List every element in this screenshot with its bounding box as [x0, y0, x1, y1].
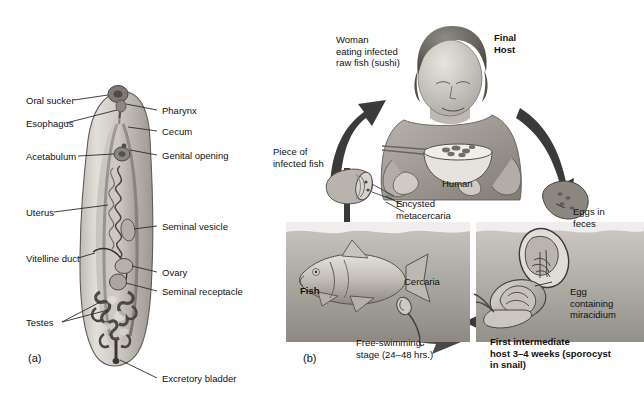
label-encysted-metacercaria: Encysted metacercaria: [396, 198, 451, 221]
panel-a-id: (a): [28, 352, 41, 364]
label-testes: Testes: [26, 317, 53, 329]
ovary-shape: [115, 259, 133, 274]
label-free-swimming-stage: Free-swimming stage (24–48 hrs.): [356, 337, 433, 360]
figure-container: Oral sucker Esophagus Acetabulum Uterus …: [0, 0, 644, 400]
excretory-pore: [113, 358, 120, 364]
label-fish: Fish: [300, 285, 320, 297]
label-cecum: Cecum: [162, 126, 192, 138]
oral-sucker-opening: [114, 91, 123, 98]
label-egg-containing-miracidium: Egg containing miracidium: [570, 286, 616, 321]
label-oral-sucker: Oral sucker: [26, 95, 75, 107]
genital-opening-shape: [122, 144, 127, 149]
label-ovary: Ovary: [162, 267, 187, 279]
label-seminal-vesicle: Seminal vesicle: [162, 221, 228, 233]
label-eggs-in-feces: Eggs in feces: [573, 206, 605, 229]
label-uterus: Uterus: [26, 207, 54, 219]
panel-b-id: (b): [303, 352, 316, 364]
label-esophagus: Esophagus: [26, 118, 74, 130]
label-piece-of-infected-fish: Piece of infected fish: [273, 146, 324, 169]
label-excretory-bladder: Excretory bladder: [162, 373, 236, 385]
label-seminal-receptacle: Seminal receptacle: [162, 286, 243, 298]
fish-water-panel: [286, 222, 470, 346]
label-acetabulum: Acetabulum: [26, 151, 76, 163]
acetabulum-opening: [119, 151, 126, 157]
label-first-intermediate-host: First intermediate host 3–4 weeks (sporo…: [490, 336, 611, 371]
label-cercaria: Cercaria: [404, 276, 440, 288]
label-human: Human: [442, 178, 473, 190]
label-genital-opening: Genital opening: [162, 150, 229, 162]
pharynx-shape: [116, 100, 126, 112]
label-pharynx: Pharynx: [162, 105, 197, 117]
seminal-receptacle-shape: [110, 274, 127, 290]
label-final-host: Final Host: [494, 32, 516, 55]
label-woman-eating: Woman eating infected raw fish (sushi): [336, 34, 400, 69]
label-vitelline-duct: Vitelline duct: [26, 253, 80, 265]
